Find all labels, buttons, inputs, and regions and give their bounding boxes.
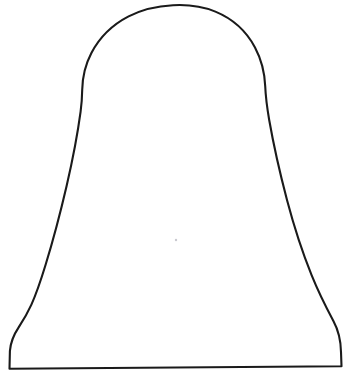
- paper-smudge-mark: [175, 239, 177, 241]
- drawing-canvas: [0, 0, 351, 379]
- bell-outline-svg: [0, 0, 351, 379]
